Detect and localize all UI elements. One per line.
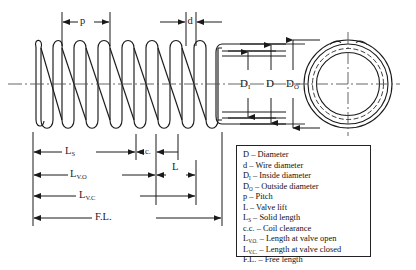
legend-item: LV.C. – Length at valve closed xyxy=(243,245,370,256)
legend-item: LS – Solid length xyxy=(243,213,370,224)
mean-diameter-label: D xyxy=(266,77,274,89)
length-valve-open-label: LV.O xyxy=(70,168,87,179)
pitch-label: p xyxy=(80,15,85,26)
spring-diagram: p d DI D DO LS c.c. LV.O L LV.C F.L. D –… xyxy=(0,0,416,270)
legend-item: F.L. – Free length xyxy=(243,255,370,266)
valve-lift-label: L xyxy=(172,161,178,172)
wire-diameter-label: d xyxy=(188,15,193,26)
legend-item: D – Diameter xyxy=(243,150,370,161)
inside-diameter-label: DI xyxy=(240,77,250,89)
legend-item: p – Pitch xyxy=(243,192,370,203)
length-valve-closed-label: LV.C xyxy=(79,189,95,200)
length-dimensions xyxy=(33,132,222,226)
legend-box: D – Diameter d – Wire diameter DI – Insi… xyxy=(236,145,371,257)
legend-item: c.c. – Coil clearance xyxy=(243,224,370,235)
solid-length-label: LS xyxy=(65,145,75,156)
legend-item: L – Valve lift xyxy=(243,203,370,214)
legend-item: DI – Inside diameter xyxy=(243,171,370,182)
free-length-label: F.L. xyxy=(95,211,112,222)
legend-item: LV.O. – Length at valve open xyxy=(243,234,370,245)
legend-item: DO – Outside diameter xyxy=(243,182,370,193)
legend-item: d – Wire diameter xyxy=(243,161,370,172)
coil-clearance-label: c.c. xyxy=(139,146,151,156)
outside-diameter-label: DO xyxy=(286,77,299,89)
